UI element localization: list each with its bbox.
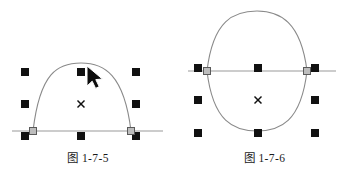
figure-1-7-5-canvas: [0, 0, 176, 148]
curve-node-right[interactable]: [304, 68, 311, 75]
handle-middle-right[interactable]: [132, 100, 140, 108]
handle-top-left[interactable]: [194, 64, 202, 72]
closed-curve-upper-path[interactable]: [207, 11, 307, 71]
figure-1-7-6-canvas: [176, 0, 353, 148]
handle-top-center[interactable]: [77, 68, 85, 76]
handle-top-right[interactable]: [132, 68, 140, 76]
curve-node-left[interactable]: [204, 68, 211, 75]
curve-node-right[interactable]: [128, 128, 135, 135]
handle-middle-right[interactable]: [311, 96, 319, 104]
handle-top-center[interactable]: [254, 64, 262, 72]
figure-caption-right: 图 1-7-6: [176, 149, 353, 165]
handle-bottom-left[interactable]: [194, 129, 202, 137]
handle-bottom-center[interactable]: [77, 132, 85, 140]
center-marker-icon: [78, 101, 85, 108]
handle-bottom-left[interactable]: [21, 132, 29, 140]
handle-top-left[interactable]: [21, 68, 29, 76]
handle-bottom-center[interactable]: [254, 129, 262, 137]
handle-middle-left[interactable]: [194, 96, 202, 104]
center-marker-icon: [255, 97, 262, 104]
arrow-cursor-icon: [87, 66, 102, 88]
handle-bottom-right[interactable]: [311, 129, 319, 137]
figure-1-7-5-panel: 图 1-7-5: [0, 0, 176, 175]
figure-caption-left: 图 1-7-5: [0, 149, 176, 165]
handle-middle-left[interactable]: [21, 100, 29, 108]
handle-top-right[interactable]: [311, 64, 319, 72]
figure-1-7-6-panel: 图 1-7-6: [176, 0, 353, 175]
curve-node-left[interactable]: [30, 128, 37, 135]
figure-sheet: 图 1-7-5: [0, 0, 353, 175]
